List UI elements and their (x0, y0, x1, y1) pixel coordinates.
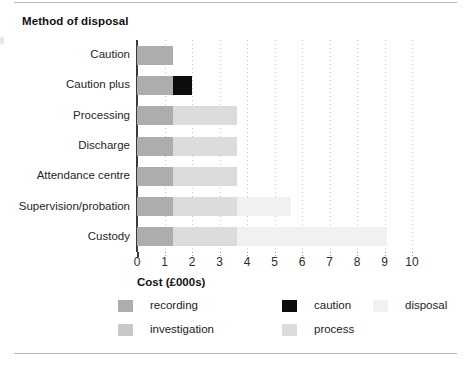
legend-swatch-recording (118, 300, 133, 312)
x-tick-label-10: 10 (405, 256, 418, 268)
x-tick-label-4: 4 (244, 256, 251, 268)
bar-segment-recording (137, 167, 173, 186)
top-divider-rule (14, 2, 457, 3)
bar-row: Processing (137, 106, 412, 125)
x-tick-label-9: 9 (381, 256, 388, 268)
bar-segment-recording (137, 46, 173, 65)
bar-segment-recording (137, 197, 173, 216)
legend-item-process[interactable]: process (282, 324, 354, 336)
x-tick-label-2: 2 (189, 256, 196, 268)
bar-row: Caution plus (137, 76, 412, 95)
legend-label: disposal (405, 300, 447, 312)
bar-segment-recording (137, 76, 173, 95)
legend-swatch-disposal (373, 300, 388, 312)
gridline-10 (412, 40, 413, 252)
bar-segment-disposal (237, 227, 387, 246)
bar-segment-process (173, 227, 238, 246)
legend-label: investigation (150, 324, 214, 336)
bar-row: Custody (137, 227, 412, 246)
bar-segment-process (173, 106, 238, 125)
bar-row: Caution (137, 46, 412, 65)
legend-item-disposal[interactable]: disposal (373, 300, 447, 312)
bar-row: Supervision/probation (137, 197, 412, 216)
legend-swatch-investigation (118, 324, 133, 336)
legend-label: process (314, 324, 354, 336)
plot-area: CautionCaution plusProcessingDischargeAt… (137, 40, 412, 252)
legend-label: recording (150, 300, 198, 312)
legend-item-recording[interactable]: recording (118, 300, 198, 312)
bar-segment-recording (137, 106, 173, 125)
x-tick-label-7: 7 (326, 256, 333, 268)
bar-rows: CautionCaution plusProcessingDischargeAt… (137, 40, 412, 252)
bar-row: Attendance centre (137, 167, 412, 186)
bar-segment-caution (173, 76, 192, 95)
bar-segment-process (173, 197, 238, 216)
legend-item-caution[interactable]: caution (282, 300, 351, 312)
x-tick-label-8: 8 (354, 256, 361, 268)
category-label: Attendance centre (37, 170, 130, 182)
x-axis-label: Cost (£000s) (137, 276, 205, 288)
bottom-divider-rule (14, 353, 457, 354)
category-label: Caution (90, 49, 130, 61)
bar-segment-process (173, 167, 238, 186)
x-tick-label-1: 1 (161, 256, 168, 268)
x-axis-tick-labels: 012345678910 (0, 256, 471, 272)
bar-segment-disposal (237, 197, 291, 216)
category-label: Processing (73, 110, 130, 122)
legend-swatch-process (282, 324, 297, 336)
page-title: Method of disposal (22, 15, 129, 27)
x-tick-label-6: 6 (299, 256, 306, 268)
x-tick-label-3: 3 (216, 256, 223, 268)
chart-figure: Method of disposal CautionCaution plusPr… (0, 0, 471, 366)
chart-legend: recordinginvestigationcautionprocessdisp… (118, 300, 458, 346)
category-label: Discharge (78, 140, 130, 152)
category-label: Custody (88, 231, 130, 243)
legend-item-investigation[interactable]: investigation (118, 324, 214, 336)
category-label: Caution plus (66, 79, 130, 91)
x-tick-label-0: 0 (134, 256, 141, 268)
bar-segment-recording (137, 137, 173, 156)
bar-segment-recording (137, 227, 173, 246)
bar-row: Discharge (137, 137, 412, 156)
scan-artifact (0, 36, 4, 45)
legend-swatch-caution (282, 300, 297, 312)
legend-label: caution (314, 300, 351, 312)
category-label: Supervision/probation (19, 201, 130, 213)
x-tick-label-5: 5 (271, 256, 278, 268)
bar-segment-process (173, 137, 238, 156)
